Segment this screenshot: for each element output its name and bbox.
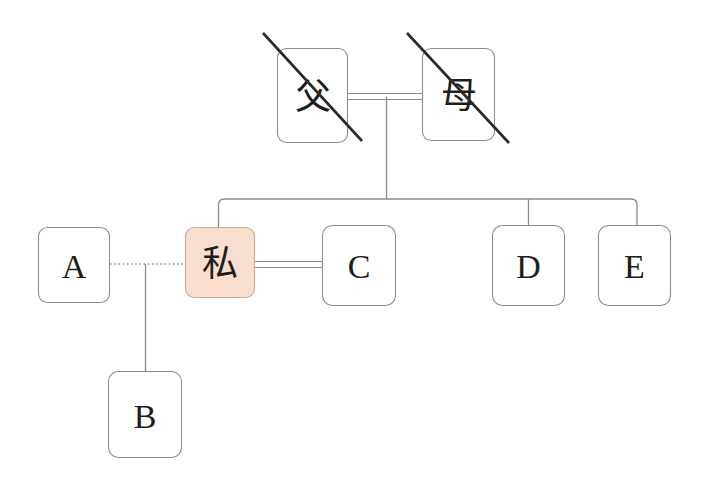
node-father[interactable]: 父 xyxy=(278,49,348,143)
node-father-label: 父 xyxy=(295,76,331,117)
node-e-label: E xyxy=(624,248,645,285)
link-father-mother xyxy=(348,94,422,100)
node-c-label: C xyxy=(348,248,371,285)
node-b[interactable]: B xyxy=(109,372,182,458)
node-self[interactable]: 私 xyxy=(186,228,255,298)
family-tree-canvas: 父 母 A 私 C D xyxy=(0,0,706,480)
node-d-label: D xyxy=(516,248,541,285)
node-mother-label: 母 xyxy=(441,75,477,116)
node-a[interactable]: A xyxy=(39,228,110,303)
sibling-bar xyxy=(219,199,638,228)
node-self-label: 私 xyxy=(202,243,238,284)
node-a-label: A xyxy=(62,248,87,285)
family-tree-diagram: 父 母 A 私 C D xyxy=(0,0,706,480)
link-self-c xyxy=(254,262,322,268)
node-e[interactable]: E xyxy=(599,226,671,306)
node-b-label: B xyxy=(134,398,157,435)
node-c[interactable]: C xyxy=(323,226,396,306)
node-d[interactable]: D xyxy=(493,226,565,306)
